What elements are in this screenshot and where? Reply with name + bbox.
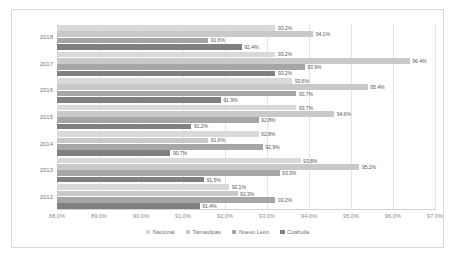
chart-container: 2018201720162015201420132012 93.2%94.1%9… xyxy=(0,0,455,257)
category-label-2014: 2014 xyxy=(40,141,53,147)
chart-legend: NacionalTamaulipasNuevo LeónCoahuila xyxy=(12,229,443,235)
category-axis: 2018201720162015201420132012 xyxy=(20,24,53,210)
x-tick-label: 89.0% xyxy=(91,213,107,219)
bar-value-label: 92.3% xyxy=(240,191,254,197)
bar[interactable] xyxy=(57,131,259,137)
bar-row: 94.1% xyxy=(57,31,435,37)
bar[interactable] xyxy=(57,71,275,77)
bar[interactable] xyxy=(57,25,275,31)
bar[interactable] xyxy=(57,105,296,111)
bar-row: 93.2% xyxy=(57,197,435,203)
x-tick-label: 93.0% xyxy=(259,213,275,219)
bar[interactable] xyxy=(57,138,208,144)
bar-row: 95.4% xyxy=(57,84,435,90)
bar[interactable] xyxy=(57,44,242,50)
legend-label: Coahuila xyxy=(287,229,309,235)
bar[interactable] xyxy=(57,52,275,58)
bar[interactable] xyxy=(57,158,301,164)
bar[interactable] xyxy=(57,111,334,117)
bar-value-label: 92.8% xyxy=(261,131,275,137)
bar[interactable] xyxy=(57,84,368,90)
bar-row: 93.2% xyxy=(57,25,435,31)
bar[interactable] xyxy=(57,184,229,190)
bar[interactable] xyxy=(57,78,292,84)
legend-item[interactable]: Nuevo León xyxy=(232,229,269,235)
bar-value-label: 93.8% xyxy=(303,158,317,164)
bar-row: 96.4% xyxy=(57,58,435,64)
category-label-2017: 2017 xyxy=(40,61,53,67)
bar-value-label: 93.2% xyxy=(278,197,292,203)
legend-label: Nuevo León xyxy=(239,229,269,235)
bar-row: 91.6% xyxy=(57,138,435,144)
bar-row: 93.2% xyxy=(57,52,435,58)
legend-swatch-icon xyxy=(186,230,191,235)
bar-row: 93.3% xyxy=(57,170,435,176)
bar-row: 93.7% xyxy=(57,91,435,97)
category-label-2015: 2015 xyxy=(40,114,53,120)
bar[interactable] xyxy=(57,117,259,123)
category-label-2013: 2013 xyxy=(40,167,53,173)
legend-item[interactable]: Nacional xyxy=(146,229,175,235)
category-label-2016: 2016 xyxy=(40,87,53,93)
bar-row: 93.8% xyxy=(57,158,435,164)
bar[interactable] xyxy=(57,144,263,150)
bar-row: 91.2% xyxy=(57,124,435,130)
bar-row: 90.7% xyxy=(57,150,435,156)
bar[interactable] xyxy=(57,150,170,156)
bar-row: 92.8% xyxy=(57,117,435,123)
x-tick-label: 91.0% xyxy=(175,213,191,219)
bar-value-label: 90.7% xyxy=(173,150,187,156)
x-tick-label: 90.0% xyxy=(133,213,149,219)
bar-value-label: 94.1% xyxy=(316,31,330,37)
x-tick-label: 95.0% xyxy=(343,213,359,219)
bar-row: 92.9% xyxy=(57,144,435,150)
bar-value-label: 93.6% xyxy=(295,78,309,84)
bar-value-label: 92.4% xyxy=(244,44,258,50)
bar-value-label: 96.4% xyxy=(412,58,426,64)
bar[interactable] xyxy=(57,191,238,197)
legend-label: Nacional xyxy=(153,229,175,235)
category-label-2018: 2018 xyxy=(40,34,53,40)
bar-value-label: 93.3% xyxy=(282,170,296,176)
bar-value-label: 91.4% xyxy=(202,203,216,209)
gridline xyxy=(435,24,436,210)
legend-label: Tamaulipas xyxy=(193,229,221,235)
bar[interactable] xyxy=(57,177,204,183)
bar[interactable] xyxy=(57,97,221,103)
bar[interactable] xyxy=(57,170,280,176)
bar-value-label: 93.7% xyxy=(299,105,313,111)
bar-value-label: 93.2% xyxy=(278,51,292,57)
bar-row: 93.6% xyxy=(57,78,435,84)
bar-value-label: 95.2% xyxy=(362,164,376,170)
bar[interactable] xyxy=(57,38,208,44)
bar-row: 91.9% xyxy=(57,97,435,103)
bar[interactable] xyxy=(57,91,296,97)
bar-row: 91.6% xyxy=(57,38,435,44)
x-tick-label: 96.0% xyxy=(385,213,401,219)
bar[interactable] xyxy=(57,164,359,170)
bar-row: 93.7% xyxy=(57,105,435,111)
bar-value-label: 91.6% xyxy=(211,137,225,143)
x-tick-label: 92.0% xyxy=(217,213,233,219)
legend-swatch-icon xyxy=(232,230,237,235)
bar[interactable] xyxy=(57,58,410,64)
bar-row: 92.3% xyxy=(57,191,435,197)
x-tick-label: 88.0% xyxy=(49,213,65,219)
bar[interactable] xyxy=(57,203,200,209)
bar-row: 94.6% xyxy=(57,111,435,117)
bar-row: 92.4% xyxy=(57,44,435,50)
bar[interactable] xyxy=(57,124,191,130)
chart-plot-frame: 2018201720162015201420132012 93.2%94.1%9… xyxy=(11,9,444,248)
bar-row: 92.8% xyxy=(57,131,435,137)
legend-item[interactable]: Tamaulipas xyxy=(186,229,221,235)
bar[interactable] xyxy=(57,64,305,70)
bar-value-label: 91.6% xyxy=(211,37,225,43)
bar-value-label: 92.9% xyxy=(265,144,279,150)
bar[interactable] xyxy=(57,31,313,37)
x-tick-label: 97.0% xyxy=(427,213,443,219)
bar-value-label: 92.8% xyxy=(261,117,275,123)
bar-value-label: 93.7% xyxy=(299,91,313,97)
legend-item[interactable]: Coahuila xyxy=(280,229,309,235)
bar[interactable] xyxy=(57,197,275,203)
bar-row: 95.2% xyxy=(57,164,435,170)
